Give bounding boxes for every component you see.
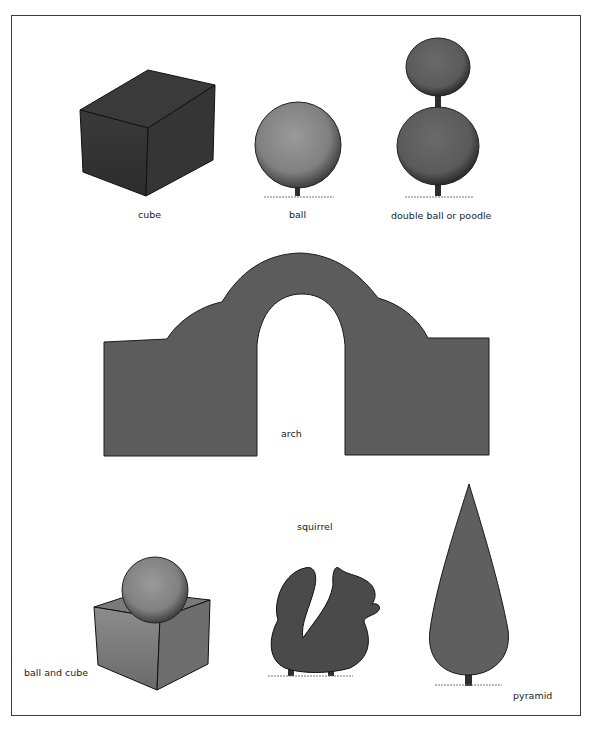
double-ball-shape [397, 38, 479, 197]
squirrel-shape [268, 567, 380, 676]
label-ball: ball [289, 209, 306, 220]
label-pyramid: pyramid [513, 690, 552, 701]
topiary-illustration [0, 0, 593, 731]
label-double-ball: double ball or poodle [391, 210, 491, 221]
pyramid-shape [429, 484, 508, 686]
ball-and-cube-shape [94, 557, 210, 690]
label-ball-and-cube: ball and cube [24, 667, 88, 678]
label-cube: cube [138, 209, 161, 220]
ball-shape [255, 102, 341, 197]
label-squirrel: squirrel [297, 521, 333, 532]
arch-shape [104, 253, 489, 456]
cube-shape [80, 70, 215, 196]
label-arch: arch [281, 428, 302, 439]
